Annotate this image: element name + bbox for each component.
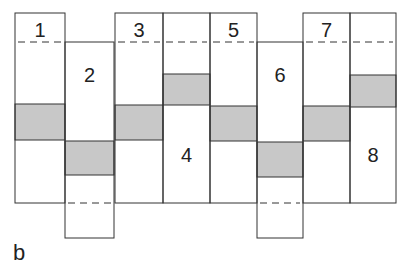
column-number-5: 5 bbox=[228, 19, 239, 41]
shaded-block-6 bbox=[257, 142, 303, 177]
column-number-6: 6 bbox=[274, 64, 285, 86]
shaded-block-3 bbox=[115, 105, 163, 140]
folding-diagram: 12345678 bbox=[0, 0, 405, 270]
shaded-block-7 bbox=[303, 106, 350, 141]
shaded-block-1 bbox=[15, 104, 65, 140]
column-number-7: 7 bbox=[321, 19, 332, 41]
shaded-block-4 bbox=[163, 74, 210, 105]
panel-label: b bbox=[13, 240, 25, 266]
column-number-8: 8 bbox=[367, 144, 378, 166]
shaded-block-8 bbox=[350, 75, 396, 107]
column-number-3: 3 bbox=[133, 19, 144, 41]
shaded-block-5 bbox=[210, 106, 257, 141]
shaded-block-2 bbox=[65, 141, 114, 175]
column-number-1: 1 bbox=[34, 19, 45, 41]
column-number-2: 2 bbox=[84, 64, 95, 86]
column-number-4: 4 bbox=[181, 144, 192, 166]
